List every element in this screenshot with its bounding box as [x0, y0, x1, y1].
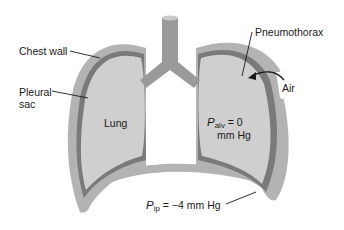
- p-ip-leader: [226, 192, 256, 204]
- lung-label: Lung: [104, 117, 127, 129]
- p-alv-value: = 0: [225, 116, 243, 128]
- p-ip-value: = −4 mm Hg: [160, 199, 221, 211]
- air-label: Air: [282, 82, 295, 94]
- trachea-opening: [162, 16, 178, 21]
- pleural-sac-label-line1: Pleural: [19, 86, 52, 98]
- p-ip-symbol: P: [146, 199, 154, 211]
- chest-wall-label: Chest wall: [19, 45, 67, 57]
- p-alv-symbol: P: [207, 116, 215, 128]
- pleural-sac-label: Pleural sac: [19, 86, 52, 110]
- trachea: [140, 18, 200, 88]
- p-alv-unit: mm Hg: [217, 129, 251, 141]
- pleural-sac-label-line2: sac: [19, 98, 52, 110]
- p-ip-label: Pip = −4 mm Hg: [146, 199, 221, 215]
- pneumothorax-label: Pneumothorax: [255, 26, 323, 38]
